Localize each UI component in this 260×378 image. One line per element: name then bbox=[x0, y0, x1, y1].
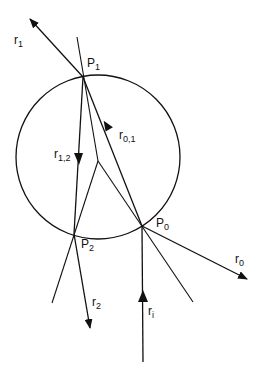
label-p1: P1 bbox=[87, 57, 100, 72]
normal-line-p0 bbox=[98, 161, 193, 302]
label-r1: r1 bbox=[14, 34, 23, 49]
arrow-r12-icon bbox=[74, 153, 83, 165]
diagram-lines bbox=[0, 0, 260, 378]
sphere-circle bbox=[16, 75, 180, 239]
ray-r01 bbox=[83, 77, 142, 226]
label-r0: r0 bbox=[235, 253, 244, 268]
ray-diagram: r1 P1 r1,2 r0,1 P2 P0 r0 r2 ri bbox=[0, 0, 260, 378]
ray-r1 bbox=[30, 19, 83, 77]
label-p2: P2 bbox=[81, 238, 94, 253]
label-r01: r0,1 bbox=[119, 129, 136, 144]
arrow-ri-icon bbox=[138, 290, 148, 302]
normal-line-p2 bbox=[52, 161, 98, 303]
label-p0: P0 bbox=[156, 217, 169, 232]
label-r2: r2 bbox=[92, 296, 101, 311]
label-r12: r1,2 bbox=[54, 148, 71, 163]
ray-r0 bbox=[142, 226, 247, 279]
arrow-r01-icon bbox=[104, 119, 114, 131]
label-ri: ri bbox=[148, 305, 154, 320]
